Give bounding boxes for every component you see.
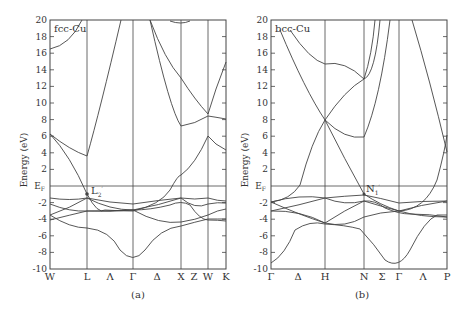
panel-a-frame: [50, 20, 226, 269]
panel-b: N1′ bcc-Cu Γ Δ H N Σ Γ Λ P (b) 20 18 16 …: [240, 15, 451, 300]
svg-text:-8: -8: [259, 247, 268, 257]
klabel: K: [222, 271, 230, 282]
svg-text:EF: EF: [255, 181, 266, 192]
caption-a: (a): [131, 289, 145, 300]
svg-text:12: 12: [257, 81, 268, 91]
svg-text:20: 20: [36, 15, 48, 25]
svg-text:2: 2: [41, 164, 47, 174]
svg-text:4: 4: [262, 148, 268, 158]
caption-b: (b): [355, 289, 369, 300]
klabel: Σ: [378, 271, 385, 282]
klabel: L: [84, 271, 91, 282]
svg-text:-10: -10: [254, 264, 269, 274]
klabel: N: [360, 271, 369, 282]
svg-text:-2: -2: [259, 198, 268, 208]
svg-text:18: 18: [36, 32, 48, 42]
svg-text:-6: -6: [38, 231, 47, 241]
svg-text:-6: -6: [259, 231, 268, 241]
svg-text:8: 8: [262, 115, 268, 125]
svg-text:-4: -4: [38, 214, 47, 224]
svg-text:4: 4: [41, 148, 47, 158]
svg-text:18: 18: [257, 32, 269, 42]
klabel: W: [203, 271, 214, 282]
band-structure-figure: L2′ fcc-Cu W L Λ Γ Δ X Z W K (a) 20 18 1…: [0, 0, 467, 311]
annotation-l2prime: L2′: [91, 185, 103, 198]
svg-text:EF: EF: [34, 181, 45, 192]
klabel: Γ: [268, 271, 275, 282]
klabel: Γ: [396, 271, 403, 282]
svg-text:14: 14: [257, 65, 269, 75]
bands-a: [50, 20, 226, 258]
y-axis-label-a: Energy (eV): [19, 133, 29, 188]
svg-text:-2: -2: [38, 198, 47, 208]
svg-text:20: 20: [257, 15, 269, 25]
klabel: Λ: [418, 271, 427, 282]
y-ticks-a: 20 18 16 14 12 10 8 6 4 2 EF -2 -4 -6 -8…: [33, 15, 48, 274]
svg-text:12: 12: [36, 81, 47, 91]
svg-text:6: 6: [41, 131, 47, 141]
annotation-n1prime: N1′: [366, 183, 381, 196]
klabel: Δ: [294, 271, 301, 282]
y-ticks-b: 20 18 16 14 12 10 8 6 4 2 EF -2 -4 -6 -8…: [254, 15, 269, 274]
svg-text:8: 8: [41, 115, 47, 125]
svg-text:-10: -10: [33, 264, 48, 274]
panel-a: L2′ fcc-Cu W L Λ Γ Δ X Z W K (a) 20 18 1…: [19, 15, 230, 300]
panel-b-title: bcc-Cu: [275, 23, 311, 34]
svg-text:6: 6: [262, 131, 268, 141]
svg-text:2: 2: [262, 164, 268, 174]
svg-text:14: 14: [36, 65, 48, 75]
klabel: Z: [191, 271, 198, 282]
y-axis-label-b: Energy (eV): [240, 133, 250, 188]
klabel: Δ: [153, 271, 160, 282]
svg-text:-8: -8: [38, 247, 47, 257]
klabel: Γ: [130, 271, 137, 282]
svg-text:16: 16: [36, 48, 48, 58]
panel-a-title: fcc-Cu: [54, 23, 87, 34]
bands-b: [271, 20, 447, 263]
svg-text:16: 16: [257, 48, 269, 58]
klabel: X: [177, 271, 185, 282]
klabel: P: [444, 271, 451, 282]
klabel: Λ: [105, 271, 114, 282]
svg-text:10: 10: [257, 98, 269, 108]
klabel: H: [321, 271, 330, 282]
svg-text:10: 10: [36, 98, 48, 108]
svg-text:-4: -4: [259, 214, 268, 224]
